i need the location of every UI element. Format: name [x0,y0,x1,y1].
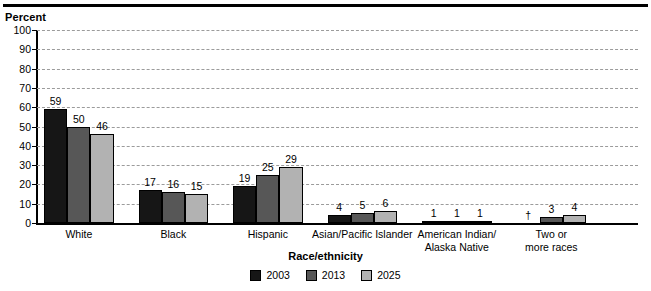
category-label-white: White [65,228,92,241]
bar-2013-american-indian-alaska-native [445,221,468,223]
y-tick-label-60: 60 [1,101,31,113]
bar-2013-asian-pacific-islander [351,213,374,223]
legend-item-2013[interactable]: 2013 [306,269,345,281]
y-tick-mark-60 [32,107,36,108]
y-tick-mark-80 [32,69,36,70]
bar-2025-asian-pacific-islander [374,211,397,223]
y-tick-label-0: 0 [1,217,31,229]
category-label-asian-pacific-islander: Asian/Pacific Islander [312,228,412,241]
y-tick-label-100: 100 [1,24,31,36]
bar-value-label: 1 [454,207,460,219]
legend-swatch-icon-2013 [306,270,317,281]
legend-item-2003[interactable]: 2003 [250,269,289,281]
y-tick-mark-90 [32,49,36,50]
bar-value-label: 19 [239,172,251,184]
y-tick-mark-30 [32,165,36,166]
bar-value-label: † [525,209,531,221]
legend-swatch-icon-2025 [361,270,372,281]
bar-2003-white [44,109,67,223]
bar-2025-two-or-more-races [563,215,586,223]
top-divider-rule [3,4,648,7]
legend-label-2003: 2003 [266,269,289,281]
x-axis-title: Race/ethnicity [0,250,651,262]
bar-value-label: 59 [50,95,62,107]
bar-2013-two-or-more-races [540,217,563,223]
gridline-90 [37,49,638,50]
plot-area: 0102030405060708090100 59504617161519252… [36,30,638,223]
gridline-70 [37,88,638,89]
bar-value-label: 1 [431,207,437,219]
chart-legend: 200320132025 [0,269,651,281]
y-tick-mark-40 [32,146,36,147]
bar-value-label: 1 [477,207,483,219]
category-label-hispanic: Hispanic [248,228,288,241]
y-tick-mark-20 [32,184,36,185]
bar-2013-white [67,127,90,224]
y-tick-mark-70 [32,88,36,89]
y-tick-label-40: 40 [1,140,31,152]
y-tick-label-20: 20 [1,178,31,190]
y-tick-label-70: 70 [1,82,31,94]
y-tick-mark-100 [32,30,36,31]
y-tick-label-90: 90 [1,43,31,55]
gridline-20 [37,184,638,185]
bar-value-label: 6 [383,197,389,209]
gridline-40 [37,146,638,147]
bar-2025-hispanic [279,167,302,223]
bar-2003-black [139,190,162,223]
bar-2013-hispanic [256,175,279,223]
y-tick-mark-50 [32,127,36,128]
y-tick-label-50: 50 [1,121,31,133]
bar-2003-american-indian-alaska-native [422,221,445,223]
bar-2013-black [162,192,185,223]
gridline-100 [37,30,638,31]
bar-value-label: 17 [144,176,156,188]
bar-2003-asian-pacific-islander [328,215,351,223]
legend-label-2013: 2013 [322,269,345,281]
bar-value-label: 50 [73,113,85,125]
y-tick-label-10: 10 [1,198,31,210]
bar-value-label: 16 [167,178,179,190]
category-label-black: Black [160,228,186,241]
y-tick-mark-0 [32,223,36,224]
gridline-80 [37,69,638,70]
bar-value-label: 29 [285,153,297,165]
bar-2025-white [90,134,113,223]
legend-item-2025[interactable]: 2025 [361,269,400,281]
bar-value-label: 5 [359,199,365,211]
legend-swatch-icon-2003 [250,270,261,281]
bar-value-label: 3 [548,203,554,215]
bar-2003-hispanic [233,186,256,223]
legend-label-2025: 2025 [377,269,400,281]
y-tick-mark-10 [32,204,36,205]
bar-value-label: 46 [96,120,108,132]
y-tick-label-80: 80 [1,63,31,75]
bar-2025-american-indian-alaska-native [468,221,491,223]
bar-value-label: 4 [572,201,578,213]
y-tick-label-30: 30 [1,159,31,171]
x-axis-line [36,223,638,225]
gridline-60 [37,107,638,108]
y-axis-title: Percent [5,11,46,23]
bar-2025-black [185,194,208,223]
bar-value-label: 25 [262,161,274,173]
bar-value-label: 15 [191,180,203,192]
bar-value-label: 4 [336,201,342,213]
gridline-30 [37,165,638,166]
gridline-50 [37,127,638,128]
